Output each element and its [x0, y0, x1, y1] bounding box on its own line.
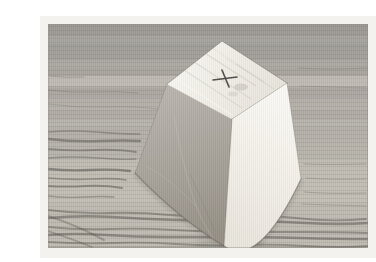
scene-svg — [40, 16, 376, 258]
photo — [48, 24, 368, 251]
photo-raster-overlay — [48, 24, 368, 248]
framed-photo: Photograph of a white truncated-pyramid … — [40, 16, 376, 258]
